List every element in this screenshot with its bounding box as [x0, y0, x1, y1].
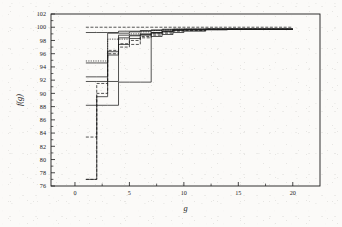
x-tick-label: 0 [73, 189, 76, 196]
y-tick-label: 78 [40, 169, 46, 176]
y-tick-label: 86 [40, 116, 46, 123]
y-tick-label: 96 [40, 50, 46, 57]
figure-canvas: 767880828486889092949698100102 05101520 … [0, 0, 342, 227]
x-tick-label: 20 [290, 189, 296, 196]
x-axis-label: g [183, 204, 187, 213]
x-tick-label: 5 [128, 189, 131, 196]
y-tick-label: 100 [37, 23, 46, 30]
y-tick-label: 90 [40, 90, 46, 97]
y-tick-label: 84 [40, 129, 46, 136]
y-tick-label: 88 [40, 103, 46, 110]
y-tick-label: 82 [40, 143, 46, 150]
chart-svg: 767880828486889092949698100102 05101520 … [0, 0, 342, 227]
y-tick-label: 80 [40, 156, 46, 163]
y-tick-label: 98 [40, 37, 46, 44]
x-tick-label: 15 [235, 189, 241, 196]
y-tick-label: 76 [40, 182, 46, 189]
y-tick-label: 102 [37, 10, 46, 17]
y-tick-label: 92 [40, 76, 46, 83]
x-tick-label: 10 [181, 189, 187, 196]
y-tick-label: 94 [40, 63, 46, 70]
y-axis-label: f(g) [15, 94, 24, 106]
